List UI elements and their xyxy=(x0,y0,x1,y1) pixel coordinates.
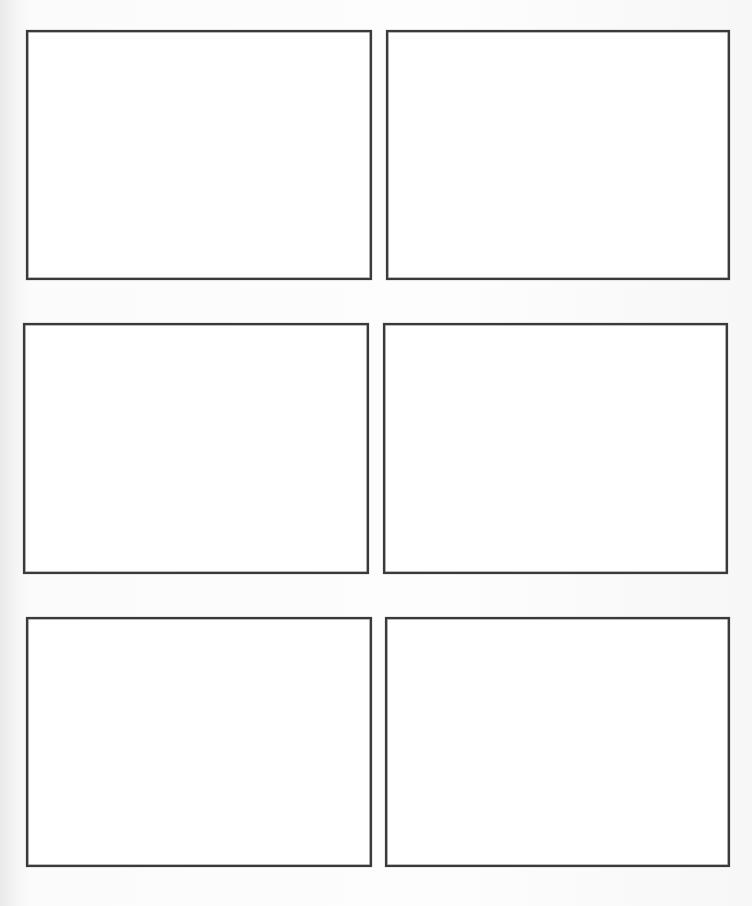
panel-3: Panel 3 xyxy=(23,323,369,574)
panel-1: Panel 1 xyxy=(26,30,372,280)
panel-label: Panel 3 xyxy=(25,325,26,326)
panel-label: Panel 5 xyxy=(28,619,29,620)
panel-label: Panel 6 xyxy=(387,619,388,620)
panel-label: Panel 2 xyxy=(388,32,389,33)
panel-6: Panel 6 xyxy=(385,617,730,867)
panel-5: Panel 5 xyxy=(26,617,372,867)
panel-label: Panel 4 xyxy=(385,325,386,326)
panel-4: Panel 4 xyxy=(383,323,728,574)
panel-2: Panel 2 xyxy=(386,30,730,280)
panel-label: Panel 1 xyxy=(28,32,29,33)
